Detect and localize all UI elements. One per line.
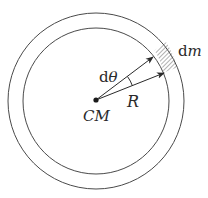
ring-diagram: dm dθ R CM	[0, 0, 208, 198]
angle-arc	[128, 77, 133, 87]
label-dtheta: dθ	[99, 68, 118, 86]
label-dm: dm	[178, 42, 202, 60]
label-radius: R	[126, 92, 139, 111]
center-of-mass-dot	[93, 97, 98, 102]
diagram-canvas: dm dθ R CM	[0, 0, 208, 198]
label-center-of-mass: CM	[83, 107, 110, 125]
